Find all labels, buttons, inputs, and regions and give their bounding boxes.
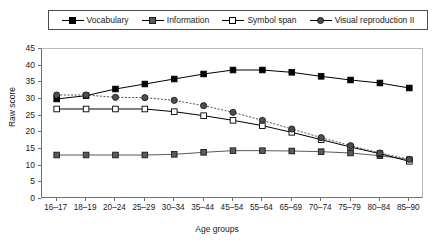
x-axis-tick-label: 65–69	[279, 203, 302, 212]
data-point	[318, 135, 324, 141]
data-point	[83, 106, 89, 112]
y-axis-tick-label: 10	[9, 161, 35, 170]
data-point	[142, 95, 148, 101]
data-point	[377, 80, 383, 86]
x-axis-tick-label: 20–24	[103, 203, 126, 212]
data-point	[54, 152, 60, 158]
data-point	[171, 76, 177, 82]
data-point	[289, 148, 295, 154]
data-point	[260, 67, 266, 73]
y-axis-tick-label: 25	[9, 111, 35, 120]
data-point	[112, 94, 118, 100]
y-axis-tick-label: 0	[9, 194, 35, 203]
plot-area	[41, 48, 423, 198]
x-axis-tick-label: 85–90	[397, 203, 420, 212]
data-point	[407, 85, 413, 91]
legend-label: Information	[167, 16, 210, 25]
data-point	[289, 126, 295, 132]
data-point	[260, 148, 266, 154]
x-axis-tick-label: 80–84	[368, 203, 391, 212]
y-axis-tick-mark	[38, 198, 41, 199]
legend-label: Visual reproduction II	[335, 16, 415, 25]
y-axis-tick-label: 45	[9, 44, 35, 53]
y-axis-tick-label: 5	[9, 177, 35, 186]
data-point	[230, 67, 236, 73]
data-point	[113, 106, 119, 112]
x-axis-tick-label: 55–64	[250, 203, 273, 212]
data-point	[318, 74, 324, 80]
data-point	[230, 118, 236, 124]
x-axis-title: Age groups	[0, 224, 434, 234]
data-point	[142, 152, 148, 158]
data-point	[171, 97, 177, 103]
data-point	[348, 77, 354, 83]
legend-item-vocabulary: Vocabulary	[62, 16, 129, 25]
data-point	[318, 149, 324, 155]
data-point	[347, 143, 353, 149]
legend-marker-gray-square-icon	[142, 16, 164, 25]
legend-item-information: Information	[142, 16, 210, 25]
data-point	[171, 109, 177, 115]
legend-item-symbol-span: Symbol span	[222, 16, 296, 25]
x-axis-tick-label: 45–54	[221, 203, 244, 212]
series-line	[57, 70, 410, 99]
y-axis-tick-label: 30	[9, 94, 35, 103]
data-point	[201, 103, 207, 109]
data-point	[230, 148, 236, 154]
x-axis-tick-label: 30–34	[162, 203, 185, 212]
chart-legend: Vocabulary Information Symbol span Visua…	[48, 10, 428, 30]
y-axis-tick-label: 35	[9, 77, 35, 86]
data-point	[142, 106, 148, 112]
legend-label: Symbol span	[247, 16, 296, 25]
data-point	[54, 106, 60, 112]
legend-marker-open-square-icon	[222, 16, 244, 25]
series-lines	[42, 49, 424, 199]
data-point	[377, 150, 383, 156]
series-information	[54, 148, 412, 163]
data-point	[348, 150, 354, 156]
x-axis-tick-label: 70–74	[309, 203, 332, 212]
data-point	[201, 150, 207, 156]
data-point	[171, 152, 177, 158]
y-axis-tick-label: 15	[9, 144, 35, 153]
data-point	[230, 109, 236, 115]
data-point	[201, 113, 207, 119]
data-point	[406, 156, 412, 162]
data-point	[83, 152, 89, 158]
data-point	[113, 152, 119, 158]
x-axis-tick-label: 16–17	[44, 203, 67, 212]
data-point	[259, 117, 265, 123]
data-point	[289, 70, 295, 76]
data-point	[54, 92, 60, 98]
legend-marker-filled-square-icon	[62, 16, 84, 25]
legend-label: Vocabulary	[87, 16, 129, 25]
y-axis-tick-label: 40	[9, 61, 35, 70]
x-axis-tick-label: 18–19	[74, 203, 97, 212]
legend-marker-filled-circle-icon	[310, 16, 332, 25]
data-point	[83, 92, 89, 98]
x-axis-tick-label: 35–44	[191, 203, 214, 212]
y-axis-tick-label: 20	[9, 127, 35, 136]
line-chart: Vocabulary Information Symbol span Visua…	[0, 0, 434, 245]
legend-item-visual-reproduction-ii: Visual reproduction II	[310, 16, 415, 25]
data-point	[201, 71, 207, 77]
x-axis-tick-label: 75–79	[338, 203, 361, 212]
data-point	[142, 81, 148, 87]
x-axis-tick-label: 25–29	[132, 203, 155, 212]
data-point	[113, 86, 119, 92]
